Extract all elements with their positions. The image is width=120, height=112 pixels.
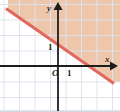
y-axis-tick-label-1: 1 [48,43,53,52]
graph-canvas [0,0,120,112]
origin-label: O [52,69,59,78]
linear-inequality-graph: y x 1 O 1 [0,0,120,112]
x-axis-label: x [105,55,110,64]
y-axis-label: y [47,4,51,13]
x-axis-tick-label-1: 1 [67,69,72,78]
